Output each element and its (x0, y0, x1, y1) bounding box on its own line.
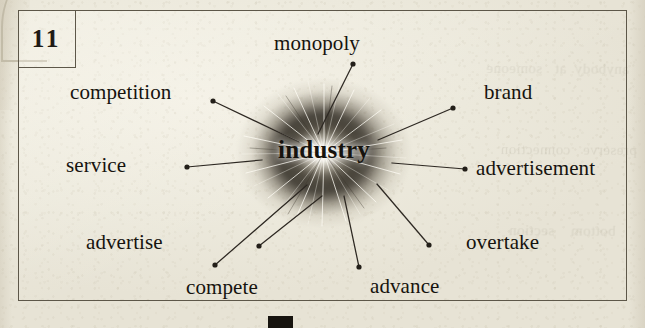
spoke-line (344, 196, 359, 267)
spoke-dot (356, 264, 361, 269)
spoke-label: overtake (466, 230, 539, 255)
spoke-dot (450, 105, 455, 110)
spoke-dot (462, 166, 467, 171)
center-word: industry (236, 136, 412, 164)
spoke-label: compete (186, 275, 258, 300)
spoke-label: service (66, 153, 126, 178)
spoke-line (377, 184, 429, 245)
spoke-line (259, 196, 322, 246)
bottom-tab-marker (268, 316, 293, 328)
spoke-label: advertisement (476, 156, 595, 181)
spoke-label: advertise (86, 230, 163, 255)
spoke-dot (256, 243, 261, 248)
scanned-page: anybody at someone preserve connection b… (0, 0, 645, 328)
spoke-dot (350, 61, 355, 66)
spoke-dot (212, 262, 217, 267)
spoke-dot (426, 242, 431, 247)
spoke-label: advance (370, 274, 439, 299)
spoke-line (318, 64, 353, 134)
spoke-dot (184, 164, 189, 169)
spoke-line (215, 185, 307, 265)
spoke-label: monopoly (274, 31, 360, 56)
spoke-dot (210, 98, 215, 103)
spoke-label: brand (484, 80, 532, 105)
spoke-label: competition (70, 80, 171, 105)
